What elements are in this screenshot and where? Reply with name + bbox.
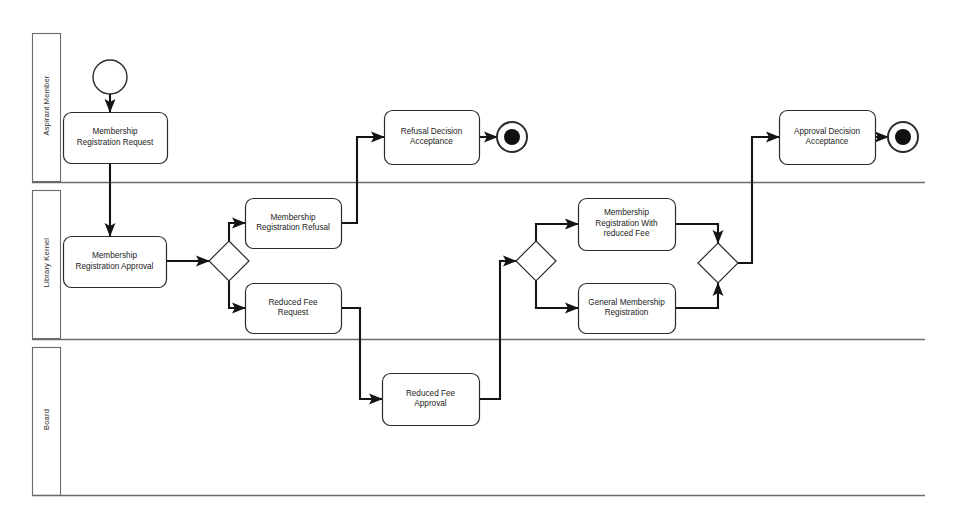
lane-header-box-1 <box>33 191 61 339</box>
flow-reduced-fee-request-to-approval <box>341 308 382 399</box>
task-general-membership-registration[interactable] <box>579 284 676 334</box>
flow-merge-to-approval-acceptance <box>738 137 779 263</box>
task-reduced-fee-request[interactable] <box>246 284 342 334</box>
flow-gateway-to-general-registration <box>536 281 578 308</box>
task-membership-registration-request[interactable] <box>64 113 168 164</box>
bpmn-vector-layer <box>0 0 955 527</box>
gateway-fee-split[interactable] <box>516 241 556 281</box>
task-reduced-fee-approval[interactable] <box>383 374 480 426</box>
end-event-approval-inner <box>895 129 911 145</box>
gateway-registration-merge[interactable] <box>698 243 738 283</box>
task-membership-registration-with-reduced-fee[interactable] <box>579 199 676 251</box>
task-membership-registration-approval[interactable] <box>64 237 167 288</box>
task-membership-registration-refusal[interactable] <box>246 199 342 249</box>
flow-reduced-fee-approval-to-gateway <box>479 261 516 399</box>
start-event-membership-request[interactable] <box>93 60 127 94</box>
bpmn-diagram-canvas: Aspirant MemberLibrary KernelBoardMember… <box>0 0 955 527</box>
flow-refusal-to-refusal-acceptance <box>341 137 384 223</box>
flow-gateway-to-refusal <box>229 223 245 241</box>
task-approval-decision-acceptance[interactable] <box>780 111 876 165</box>
end-event-refusal-inner <box>504 129 520 145</box>
lane-header-box-2 <box>33 348 61 496</box>
flow-gateway-to-reduced-fee-registration <box>536 224 578 241</box>
flow-general-registration-to-merge <box>675 283 718 308</box>
gateway-approval-split[interactable] <box>209 241 249 281</box>
task-refusal-decision-acceptance[interactable] <box>385 111 480 165</box>
tasks-group <box>64 111 876 426</box>
lane-header-box-0 <box>33 34 61 182</box>
flow-reduced-fee-registration-to-merge <box>675 224 718 243</box>
flow-gateway-to-reduced-fee-request <box>229 281 245 308</box>
